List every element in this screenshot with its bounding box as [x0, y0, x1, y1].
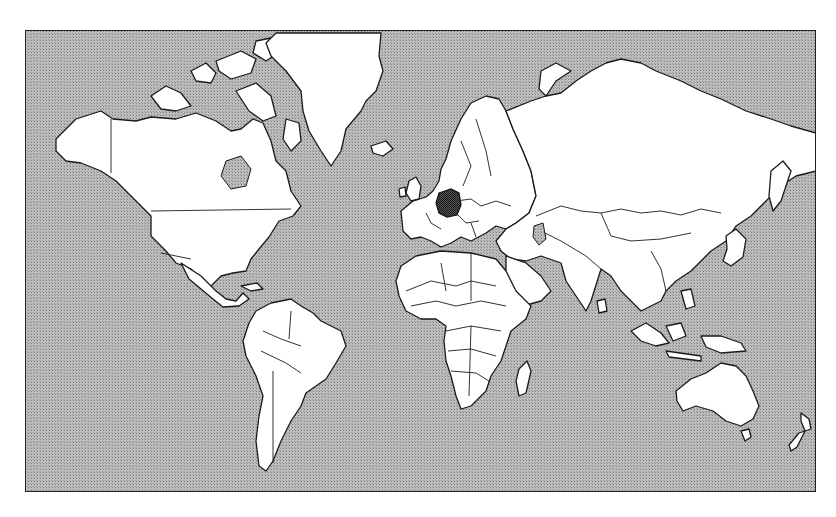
germany-highlight	[436, 189, 461, 217]
world-map	[25, 30, 816, 492]
